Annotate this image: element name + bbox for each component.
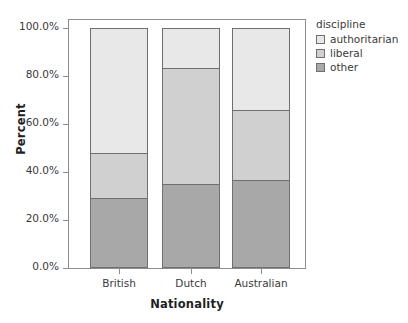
bar-dutch[interactable] xyxy=(162,28,220,268)
bar-segment-dutch-other[interactable] xyxy=(162,184,220,268)
bar-australian[interactable] xyxy=(232,28,290,268)
bar-segment-british-liberal[interactable] xyxy=(90,153,148,199)
y-axis-tick-label: 40.0% xyxy=(26,164,59,176)
bar-segment-australian-authoritarian[interactable] xyxy=(232,28,290,110)
x-axis-tick-mark xyxy=(119,269,120,274)
x-axis-label-australian: Australian xyxy=(206,277,316,289)
x-axis-title: Nationality xyxy=(68,297,306,311)
bar-segment-british-other[interactable] xyxy=(90,198,148,268)
plot-area xyxy=(68,28,306,268)
y-axis-tick-label: 20.0% xyxy=(26,212,59,224)
legend: discipline authoritarian liberal other xyxy=(316,18,408,75)
bar-british[interactable] xyxy=(90,28,148,268)
x-axis-tick-mark xyxy=(191,269,192,274)
y-axis-tick-label: 80.0% xyxy=(26,68,59,80)
legend-swatch-authoritarian xyxy=(316,35,325,44)
y-axis-tick-label: 100.0% xyxy=(19,20,59,32)
legend-label-liberal: liberal xyxy=(330,47,363,59)
y-axis-title: Percent xyxy=(14,89,28,169)
legend-label-authoritarian: authoritarian xyxy=(330,33,398,45)
bar-segment-british-authoritarian[interactable] xyxy=(90,28,148,153)
legend-swatch-liberal xyxy=(316,49,325,58)
x-axis-tick-mark xyxy=(261,269,262,274)
bar-segment-australian-liberal[interactable] xyxy=(232,110,290,181)
legend-item-liberal[interactable]: liberal xyxy=(316,47,408,59)
bar-segment-dutch-liberal[interactable] xyxy=(162,68,220,184)
legend-swatch-other xyxy=(316,63,325,72)
bar-segment-australian-other[interactable] xyxy=(232,180,290,268)
y-axis-tick-label: 0.0% xyxy=(32,260,59,272)
y-axis: 100.0% 80.0% 60.0% 40.0% 20.0% 0.0% xyxy=(0,0,68,323)
legend-label-other: other xyxy=(330,61,358,73)
bar-segment-dutch-authoritarian[interactable] xyxy=(162,28,220,68)
stacked-bar-chart: 100.0% 80.0% 60.0% 40.0% 20.0% 0.0% Perc… xyxy=(0,0,408,323)
legend-item-authoritarian[interactable]: authoritarian xyxy=(316,33,408,45)
y-axis-tick-label: 60.0% xyxy=(26,116,59,128)
legend-item-other[interactable]: other xyxy=(316,61,408,73)
legend-title: discipline xyxy=(316,18,408,30)
